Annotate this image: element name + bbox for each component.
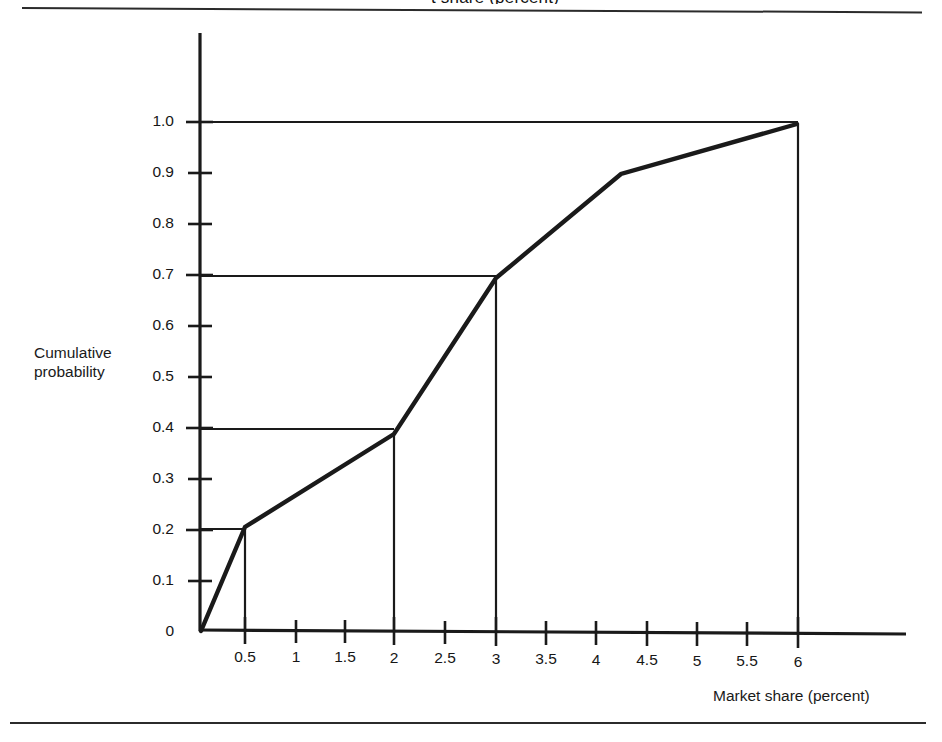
y-tick-label: 1.0: [130, 112, 174, 130]
y-tick-label: 0.4: [130, 418, 174, 436]
x-tick-label: 4: [574, 651, 618, 669]
y-tick-label: 0.8: [130, 214, 174, 232]
x-axis-line: [199, 630, 906, 634]
y-tick-label: 0.1: [130, 571, 174, 589]
y-axis-title-line2: probability: [34, 362, 112, 381]
y-tick-label: 0.7: [130, 265, 174, 283]
bottom-divider-rule: [10, 722, 926, 724]
y-tick-label: 0.6: [130, 316, 174, 334]
y-tick-label: 0.2: [130, 520, 174, 538]
guide-lines: [201, 122, 798, 634]
x-tick-label: 3: [474, 650, 518, 668]
x-tick-label: 0.5: [223, 648, 267, 666]
cdf-curve: [201, 124, 797, 631]
x-tick-label: 1.5: [323, 648, 367, 666]
chart-figure: t share (percent): [0, 0, 942, 742]
y-tick-label: 0.9: [130, 163, 174, 181]
y-tick-label: 0.5: [130, 367, 174, 385]
x-tick-label: 4.5: [625, 651, 669, 669]
y-tick-label: 0.3: [130, 469, 174, 487]
x-tick-label: 3.5: [524, 650, 568, 668]
y-axis-title: Cumulative probability: [34, 343, 112, 381]
x-tick-label: 2: [372, 649, 416, 667]
y-tick-label: 0: [130, 622, 174, 640]
x-tick-label: 5: [675, 652, 719, 670]
x-tick-label: 2.5: [423, 649, 467, 667]
x-tick-label: 6: [776, 653, 820, 671]
x-tick-label: 5.5: [725, 652, 769, 670]
x-axis-title: Market share (percent): [713, 686, 870, 705]
y-axis-title-line1: Cumulative: [34, 343, 112, 362]
x-tick-label: 1: [274, 648, 318, 666]
